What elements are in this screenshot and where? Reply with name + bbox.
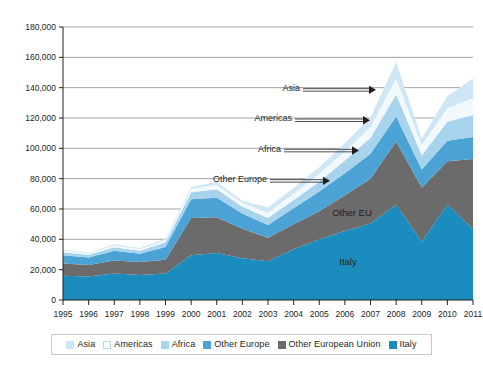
y-axis-tick-label: 0: [51, 295, 56, 305]
stacked-area-chart: 020,00040,00060,00080,000100,000120,0001…: [0, 0, 483, 332]
y-axis: 020,00040,00060,00080,000100,000120,0001…: [25, 22, 63, 305]
legend-label: Other European Union: [289, 340, 381, 349]
chart-legend: AsiaAmericasAfricaOther EuropeOther Euro…: [51, 334, 432, 355]
legend-item-other-europe[interactable]: Other Europe: [203, 340, 269, 349]
x-axis-tick-label: 1995: [54, 309, 73, 319]
legend-label: Other Europe: [214, 340, 269, 349]
inline-label-other-eu: Other EU: [332, 207, 372, 218]
legend-swatch: [161, 341, 169, 349]
legend-item-americas[interactable]: Americas: [103, 340, 152, 349]
y-axis-tick-label: 120,000: [25, 113, 56, 123]
y-axis-tick-label: 140,000: [25, 83, 56, 93]
x-axis-tick-label: 2010: [438, 309, 457, 319]
x-axis-tick-label: 2008: [387, 309, 406, 319]
x-axis-tick-label: 1998: [130, 309, 149, 319]
legend-swatch: [203, 341, 211, 349]
x-axis-tick-label: 2009: [412, 309, 431, 319]
x-axis-tick-label: 2011: [464, 309, 483, 319]
y-axis-tick-label: 160,000: [25, 52, 56, 62]
x-axis: 1995199619971998199920002001200220032004…: [54, 300, 483, 319]
legend-label: Asia: [77, 340, 95, 349]
x-axis-tick-label: 2005: [310, 309, 329, 319]
x-axis-tick-label: 2006: [335, 309, 354, 319]
y-axis-tick-label: 80,000: [30, 174, 56, 184]
x-axis-tick-label: 2007: [361, 309, 380, 319]
area-series-group: [63, 62, 473, 300]
x-axis-tick-label: 2000: [182, 309, 201, 319]
plot-area: 020,00040,00060,00080,000100,000120,0001…: [0, 0, 483, 332]
annotation-label-americas: Americas: [254, 113, 292, 123]
annotation-label-asia: Asia: [282, 83, 300, 93]
y-axis-tick-label: 180,000: [25, 22, 56, 32]
x-axis-tick-label: 2002: [233, 309, 252, 319]
legend-item-asia[interactable]: Asia: [66, 340, 95, 349]
y-axis-tick-label: 60,000: [30, 204, 56, 214]
x-axis-tick-label: 2001: [207, 309, 226, 319]
x-axis-tick-label: 2004: [284, 309, 303, 319]
legend-swatch: [389, 341, 397, 349]
x-axis-tick-label: 1999: [156, 309, 175, 319]
y-axis-tick-label: 20,000: [30, 265, 56, 275]
legend-label: Africa: [172, 340, 196, 349]
legend-swatch: [66, 341, 74, 349]
x-axis-tick-label: 2003: [259, 309, 278, 319]
legend-swatch: [103, 341, 111, 349]
y-axis-tick-label: 100,000: [25, 143, 56, 153]
x-axis-tick-label: 1997: [105, 309, 124, 319]
y-axis-tick-label: 40,000: [30, 234, 56, 244]
legend-item-other-european-union[interactable]: Other European Union: [278, 340, 381, 349]
annotation-arrowhead: [369, 86, 376, 94]
annotation-label-other-europe: Other Europe: [213, 174, 267, 184]
legend-swatch: [278, 341, 286, 349]
annotation-label-africa: Africa: [258, 144, 281, 154]
legend-item-italy[interactable]: Italy: [389, 340, 417, 349]
x-axis-tick-label: 1996: [79, 309, 98, 319]
chart-figure: 020,00040,00060,00080,000100,000120,0001…: [0, 0, 483, 365]
legend-item-africa[interactable]: Africa: [161, 340, 196, 349]
legend-label: Americas: [114, 340, 152, 349]
inline-label-italy: Italy: [339, 256, 357, 267]
legend-label: Italy: [400, 340, 417, 349]
